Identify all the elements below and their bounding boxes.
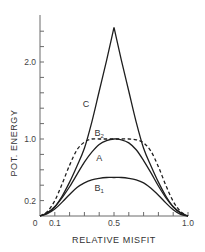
x-tick-label: 0.5 xyxy=(108,218,120,228)
curve-label-b1: B1 xyxy=(95,183,105,194)
curve-c xyxy=(40,27,188,216)
y-tick-labels: 0.21.02.0 xyxy=(24,57,36,206)
x-tick-label: 0 xyxy=(33,218,38,228)
x-tick-label: 0.1 xyxy=(49,218,61,228)
curve-label-b2: B2 xyxy=(95,128,105,139)
x-axis-title: RELATIVE MISFIT xyxy=(72,235,156,245)
x-tick-labels: 00.10.51.0 xyxy=(33,218,195,228)
curve-label-c: C xyxy=(83,99,90,109)
y-tick-label: 2.0 xyxy=(24,57,36,67)
potential-energy-chart: 0.21.02.0 00.10.51.0 CB2AB1 RELATIVE MIS… xyxy=(0,0,205,252)
y-ticks xyxy=(40,31,44,200)
curves xyxy=(40,27,188,216)
curve-label-a: A xyxy=(96,153,102,163)
x-ticks xyxy=(55,212,188,216)
y-tick-label: 0.2 xyxy=(24,196,36,206)
x-tick-label: 1.0 xyxy=(182,218,194,228)
y-tick-label: 1.0 xyxy=(24,134,36,144)
y-axis-title: POT. ENERGY xyxy=(9,109,19,176)
